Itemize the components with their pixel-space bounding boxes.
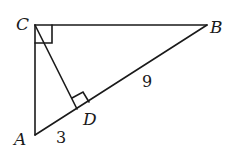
triangle-diagram: C B A D 3 9	[0, 0, 231, 149]
label-a: A	[12, 129, 26, 149]
right-angle-marker-d	[72, 92, 89, 102]
segment-ab	[35, 25, 207, 135]
label-d: D	[82, 109, 97, 129]
measure-ad: 3	[56, 128, 66, 147]
measure-db: 9	[142, 72, 152, 91]
label-c: C	[16, 14, 29, 34]
label-b: B	[209, 17, 223, 37]
segment-cd-altitude	[35, 25, 77, 109]
